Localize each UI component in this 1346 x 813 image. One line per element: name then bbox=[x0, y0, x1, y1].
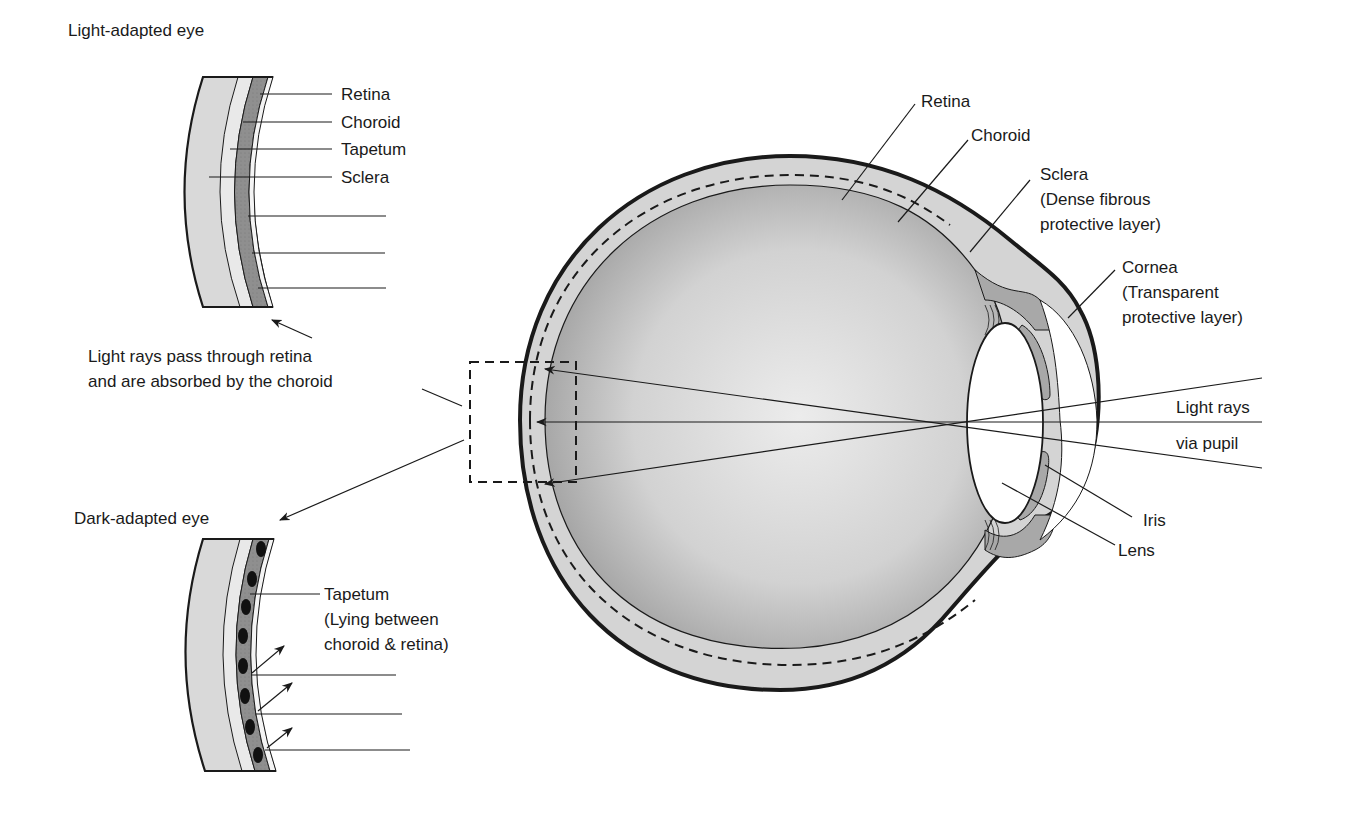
connector-line-top bbox=[422, 389, 462, 406]
label-iris: Iris bbox=[1143, 511, 1166, 530]
label-choroid: Choroid bbox=[971, 126, 1031, 145]
caption-line1: Light rays pass through retina bbox=[88, 347, 313, 366]
reflected-ray bbox=[252, 646, 284, 673]
label-lens: Lens bbox=[1118, 541, 1155, 560]
label-retina: Retina bbox=[921, 92, 971, 111]
reflected-ray bbox=[267, 728, 292, 748]
label-sclera-light: Sclera bbox=[341, 168, 390, 187]
caption-arrow bbox=[272, 320, 312, 338]
label-cornea: Cornea bbox=[1122, 258, 1178, 277]
connector-arrow-bottom bbox=[280, 440, 464, 520]
label-sclera-note-2: protective layer) bbox=[1040, 215, 1161, 234]
dark-adapted-inset: Dark-adapted eye Tapetum (Lying between … bbox=[74, 509, 449, 771]
label-tapetum-light: Tapetum bbox=[341, 140, 406, 159]
light-adapted-inset: Light-adapted eye Retina Choroid Tapetum… bbox=[68, 21, 406, 391]
leader-cornea bbox=[1068, 270, 1115, 318]
label-light-rays: Light rays bbox=[1176, 398, 1250, 417]
lens bbox=[967, 323, 1043, 523]
label-sclera: Sclera bbox=[1040, 165, 1089, 184]
light-adapted-title: Light-adapted eye bbox=[68, 21, 204, 40]
vitreous-body bbox=[545, 185, 1006, 648]
label-sclera-note-1: (Dense fibrous bbox=[1040, 190, 1151, 209]
label-choroid-light: Choroid bbox=[341, 113, 401, 132]
label-cornea-note-2: protective layer) bbox=[1122, 308, 1243, 327]
dark-adapted-title: Dark-adapted eye bbox=[74, 509, 209, 528]
label-retina-light: Retina bbox=[341, 85, 391, 104]
caption-line2: and are absorbed by the choroid bbox=[88, 372, 333, 391]
reflected-ray bbox=[258, 683, 292, 711]
label-via-pupil: via pupil bbox=[1176, 434, 1238, 453]
label-tapetum-note-1: (Lying between bbox=[324, 610, 439, 629]
label-tapetum-dark: Tapetum bbox=[324, 585, 389, 604]
main-eye: Retina Choroid Sclera (Dense fibrous pro… bbox=[470, 92, 1262, 690]
eye-diagram: Light-adapted eye Retina Choroid Tapetum… bbox=[0, 0, 1346, 813]
label-tapetum-note-2: choroid & retina) bbox=[324, 635, 449, 654]
label-cornea-note-1: (Transparent bbox=[1122, 283, 1219, 302]
